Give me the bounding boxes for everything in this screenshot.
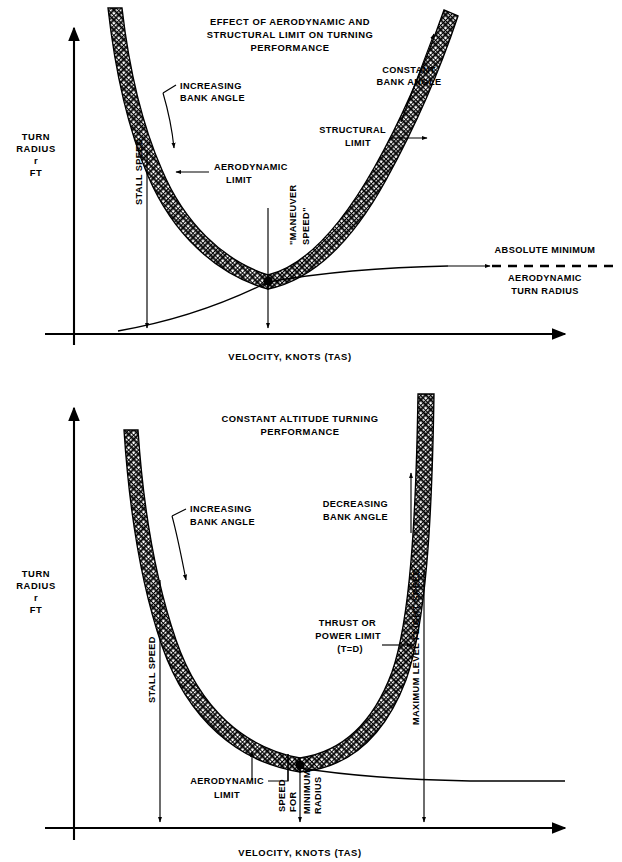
aerodynamic-turn-radius-line-2: TURN RADIUS (511, 286, 579, 296)
bottom-title-line-2: PERFORMANCE (261, 426, 340, 437)
top-y-axis-label-line-3: r (34, 155, 38, 166)
maneuver-speed-line-2: SPEED" (301, 207, 311, 245)
bottom-stall-speed-label: STALL SPEED (147, 636, 157, 703)
bottom-aerodynamic-limit-line-2: LIMIT (214, 790, 240, 800)
top-y-axis-label: TURN RADIUS r FT (16, 131, 56, 178)
top-annotation-increasing-bank-angle: INCREASING BANK ANGLE (180, 81, 245, 103)
top-aerodynamic-limit-line-2: LIMIT (226, 175, 252, 185)
top-annotation-maneuver-speed: "MANEUVER SPEED" (288, 184, 311, 245)
top-y-axis-label-line-4: FT (30, 167, 43, 178)
top-y-axis-label-line-2: RADIUS (16, 143, 56, 154)
decreasing-bank-angle-line-2: BANK ANGLE (323, 512, 388, 522)
bottom-annotation-increasing-bank-angle: INCREASING BANK ANGLE (190, 504, 255, 527)
top-stall-speed-label: STALL SPEED (134, 138, 144, 205)
bottom-title: CONSTANT ALTITUDE TURNING PERFORMANCE (221, 413, 378, 437)
bottom-annotation-decreasing-bank-angle: DECREASING BANK ANGLE (323, 499, 388, 522)
aerodynamic-limit-band (108, 8, 268, 289)
bottom-x-axis-label: VELOCITY, KNOTS (TAS) (238, 847, 361, 858)
top-annotation-structural-limit: STRUCTURAL LIMIT (319, 125, 386, 148)
constant-bank-angle-line-2: BANK ANGLE (377, 77, 442, 87)
bottom-increasing-bank-angle-leader (172, 509, 186, 516)
top-x-axis-label: VELOCITY, KNOTS (TAS) (228, 351, 351, 362)
speed-for-line-1: SPEED (277, 779, 287, 812)
figure-turning-performance-aerodynamic-structural: EFFECT OF AERODYNAMIC AND STRUCTURAL LIM… (0, 0, 622, 380)
thrust-or-power-limit-line-2: POWER LIMIT (315, 631, 381, 641)
figure-constant-altitude-turning-performance: CONSTANT ALTITUDE TURNING PERFORMANCE TU… (0, 380, 622, 862)
structural-limit-line-1: STRUCTURAL (319, 125, 386, 135)
bottom-y-axis-label-line-1: TURN (22, 568, 50, 579)
minimum-radius-line-2: RADIUS (313, 776, 323, 814)
bottom-increasing-bank-angle-line-2: BANK ANGLE (190, 517, 255, 527)
top-annotation-aerodynamic-limit: AERODYNAMIC LIMIT (214, 162, 288, 185)
bottom-increasing-bank-angle-arrow (172, 516, 186, 580)
bottom-annotation-minimum-radius: MINIMUM RADIUS (302, 770, 323, 814)
aerodynamic-turn-radius-line-1: AERODYNAMIC (508, 273, 582, 283)
increasing-bank-angle-arrow (163, 93, 174, 148)
thrust-or-power-limit-line-1: THRUST OR (319, 618, 376, 628)
increasing-bank-angle-line-2: BANK ANGLE (180, 93, 245, 103)
maximum-level-flight-speed-label: MAXIMUM LEVEL FLIGHT SPEED (411, 568, 421, 725)
bottom-y-axis-label-line-4: FT (30, 604, 43, 615)
top-y-axis-label-line-1: TURN (22, 131, 50, 142)
bottom-aerodynamic-limit-line-1: AERODYNAMIC (190, 776, 264, 786)
top-title-line-1: EFFECT OF AERODYNAMIC AND (210, 16, 370, 27)
absolute-minimum-label: ABSOLUTE MINIMUM (495, 245, 596, 255)
speed-for-minimum-radius-point (295, 760, 304, 769)
constant-bank-angle-line-1: CONSTANT (382, 65, 436, 75)
bottom-annotation-speed-for: SPEED FOR (277, 779, 298, 812)
speed-for-line-2: FOR (288, 791, 298, 812)
top-title-line-2: STRUCTURAL LIMIT ON TURNING (207, 29, 373, 40)
bottom-aerodynamic-limit-band (124, 430, 300, 772)
bottom-annotation-aerodynamic-limit: AERODYNAMIC LIMIT (190, 776, 264, 800)
bottom-hatched-limit-band (124, 394, 434, 772)
bottom-y-axis-label: TURN RADIUS r FT (16, 568, 56, 615)
bottom-annotation-thrust-or-power-limit: THRUST OR POWER LIMIT (T=D) (315, 618, 381, 654)
bottom-y-axis-label-line-2: RADIUS (16, 580, 56, 591)
top-title-line-3: PERFORMANCE (251, 42, 330, 53)
minimum-radius-reference-line (300, 768, 565, 781)
decreasing-bank-angle-line-1: DECREASING (323, 499, 388, 509)
increasing-bank-angle-leader (163, 85, 176, 93)
increasing-bank-angle-line-1: INCREASING (180, 81, 242, 91)
maneuver-speed-line-1: "MANEUVER (288, 184, 298, 245)
top-annotation-aerodynamic-turn-radius: AERODYNAMIC TURN RADIUS (508, 273, 582, 296)
top-aerodynamic-limit-line-1: AERODYNAMIC (214, 162, 288, 172)
bottom-title-line-1: CONSTANT ALTITUDE TURNING (221, 413, 378, 424)
structural-limit-line-2: LIMIT (345, 138, 371, 148)
thrust-or-power-limit-line-3: (T=D) (337, 644, 363, 654)
bottom-y-axis-label-line-3: r (34, 592, 38, 603)
top-title: EFFECT OF AERODYNAMIC AND STRUCTURAL LIM… (207, 16, 373, 53)
bottom-increasing-bank-angle-line-1: INCREASING (190, 504, 252, 514)
minimum-radius-line-1: MINIMUM (302, 770, 312, 814)
